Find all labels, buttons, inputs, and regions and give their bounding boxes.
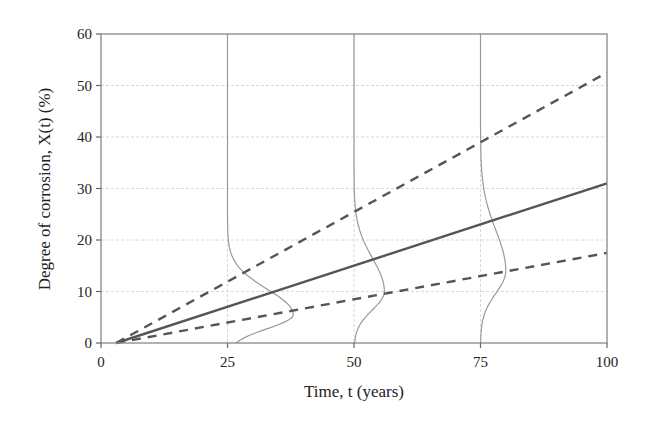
y-tick-label: 20	[77, 232, 92, 248]
y-tick-label: 60	[77, 26, 92, 42]
corrosion-chart: 0255075100 0102030405060 Time, t (years)…	[0, 0, 649, 424]
x-tick-label: 0	[97, 354, 105, 370]
y-tick-label: 40	[77, 129, 92, 145]
y-tick-label: 0	[85, 335, 93, 351]
x-axis-title: Time, t (years)	[304, 382, 404, 401]
x-tick-label: 100	[596, 354, 619, 370]
x-tick-labels: 0255075100	[97, 354, 618, 370]
y-tick-label: 30	[77, 181, 92, 197]
y-tick-label: 50	[77, 78, 92, 94]
x-tick-label: 50	[347, 354, 362, 370]
y-tick-labels: 0102030405060	[77, 26, 92, 351]
x-tick-label: 75	[473, 354, 488, 370]
series-lines	[116, 73, 607, 343]
y-tick-label: 10	[77, 284, 92, 300]
axes	[96, 34, 607, 348]
series-lower-bound	[116, 253, 607, 343]
y-axis-title: Degree of corrosion, X(t) (%)	[35, 88, 54, 291]
x-tick-label: 25	[220, 354, 235, 370]
